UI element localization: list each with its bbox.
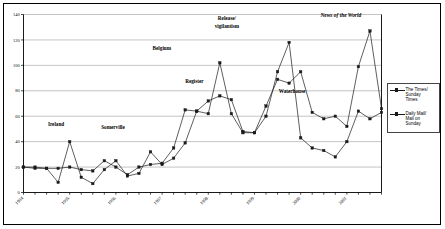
data-point-marker [207, 100, 210, 103]
y-axis-tick-label: 80 [15, 88, 20, 93]
x-axis-year-label: 1997 [153, 195, 164, 206]
data-point-marker [230, 112, 233, 115]
square-marker-icon [390, 88, 405, 94]
data-point-marker [172, 157, 175, 160]
y-axis-tick-label: 60 [15, 114, 20, 119]
data-point-marker [357, 110, 360, 113]
y-axis-tick-labels: 020406080100120140 [13, 12, 23, 195]
legend-label: Daily Mail/ Mail on Sunday [405, 111, 427, 127]
data-point-marker [80, 168, 83, 171]
y-axis-tick-label: 100 [13, 63, 20, 68]
data-point-marker [161, 162, 164, 165]
data-point-marker [219, 62, 222, 64]
x-axis-year-label: 1998 [199, 195, 210, 206]
data-point-marker [68, 140, 71, 143]
legend-entry-2: Daily Mail/ Mail on Sunday [390, 111, 427, 127]
data-point-marker [369, 118, 372, 121]
chart-annotation: Waterhouse [279, 88, 306, 94]
data-point-marker [265, 105, 268, 108]
data-point-marker [149, 163, 152, 166]
x-axis-year-label: 1996 [107, 195, 118, 206]
data-point-marker [299, 70, 302, 73]
x-axis-year-label: 1994 [14, 195, 25, 206]
data-point-marker [115, 159, 118, 162]
square-marker-icon [390, 112, 405, 118]
data-point-marker [276, 70, 279, 73]
chart-annotation: Register [185, 78, 204, 84]
data-point-marker [380, 111, 383, 114]
x-axis-year-label: 2001 [338, 195, 349, 206]
chart-container: 020406080100120140 199419951996199719981… [0, 0, 445, 229]
x-axis-year-label: 1999 [245, 195, 256, 206]
data-point-marker [138, 172, 141, 175]
data-point-marker [149, 151, 152, 154]
chart-canvas: 020406080100120140 199419951996199719981… [0, 0, 445, 229]
data-point-marker [184, 142, 187, 145]
y-axis-tick-label: 0 [17, 190, 20, 195]
chart-annotation: Ireland [48, 121, 64, 127]
data-point-marker [311, 111, 314, 114]
data-point-marker [57, 181, 60, 184]
chart-annotation: Release/ [218, 15, 237, 21]
data-point-marker [195, 110, 198, 113]
data-point-marker [334, 156, 337, 159]
chart-annotation: News of the World [319, 12, 361, 18]
gridlines-group [24, 15, 382, 168]
data-point-marker [323, 149, 326, 152]
data-point-marker [45, 167, 48, 170]
data-point-marker [230, 98, 233, 101]
chart-annotation: Somerville [101, 124, 125, 130]
y-axis-tick-label: 140 [13, 12, 20, 17]
data-point-marker [138, 166, 141, 169]
data-point-marker [334, 115, 337, 118]
data-point-marker [92, 170, 95, 173]
data-point-marker [103, 168, 106, 171]
data-point-marker [80, 176, 83, 179]
data-point-marker [184, 109, 187, 112]
data-point-marker [380, 107, 383, 110]
data-series-group [22, 30, 383, 185]
data-point-marker [253, 131, 256, 134]
data-point-marker [323, 118, 326, 121]
data-point-marker [276, 78, 279, 81]
data-point-marker [288, 82, 291, 85]
data-point-marker [68, 166, 71, 169]
data-point-marker [92, 182, 95, 185]
data-point-marker [219, 95, 222, 98]
data-point-marker [265, 115, 268, 118]
data-point-marker [357, 65, 360, 68]
x-axis-year-label: 2000 [291, 195, 302, 206]
data-point-marker [242, 130, 245, 133]
data-point-marker [22, 166, 25, 169]
y-axis-tick-label: 20 [15, 165, 20, 170]
data-point-marker [299, 137, 302, 140]
data-point-marker [172, 147, 175, 150]
data-point-marker [126, 173, 129, 176]
chart-legend: The Times/ Sunday TimesDaily Mail/ Mail … [387, 83, 440, 133]
data-point-marker [311, 147, 314, 150]
x-axis-tick-labels: 19941995199619971998199920002001 [14, 193, 381, 206]
data-point-marker [115, 166, 118, 169]
x-axis-year-label: 1995 [60, 195, 71, 206]
data-point-marker [288, 41, 291, 44]
data-point-marker [346, 125, 349, 128]
legend-label: The Times/ Sunday Times [405, 87, 428, 103]
y-axis-tick-label: 40 [15, 139, 20, 144]
series-line-1 [24, 42, 382, 183]
y-axis-tick-label: 120 [13, 38, 20, 43]
data-point-marker [57, 167, 60, 170]
data-point-marker [346, 140, 349, 143]
chart-annotation: Belgium [153, 45, 172, 51]
chart-annotation: vigilantism [215, 23, 240, 29]
annotations-group: IrelandSomervilleBelgiumRegisterRelease/… [48, 12, 362, 130]
data-point-marker [207, 112, 210, 115]
data-point-marker [34, 167, 37, 170]
data-point-marker [103, 159, 106, 162]
data-point-marker [369, 30, 372, 32]
legend-entry-1: The Times/ Sunday Times [390, 87, 428, 103]
